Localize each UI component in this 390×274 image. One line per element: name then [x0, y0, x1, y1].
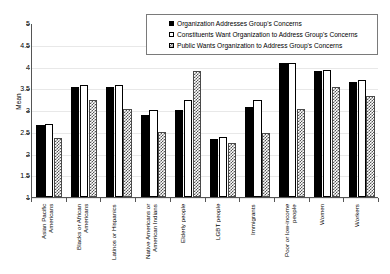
bar	[89, 100, 97, 197]
x-axis-category-label: Asian Pacific Americans	[40, 204, 56, 272]
legend-label: Public Wants Organization to Address Gro…	[177, 42, 342, 49]
legend-item: Constituents Want Organization to Addres…	[151, 29, 373, 40]
bar	[45, 124, 53, 197]
y-tick-mark	[26, 155, 30, 156]
bar	[123, 109, 131, 197]
x-axis-category-label: Workers	[353, 204, 369, 272]
x-axis-category-label: Latinos or Hispanics	[110, 204, 126, 272]
y-tick-mark	[26, 89, 30, 90]
x-axis-category-label: LGBT people	[214, 204, 230, 272]
y-tick-mark	[26, 46, 30, 47]
x-axis-category-label: Immigrants	[249, 204, 265, 272]
bar	[193, 71, 201, 197]
x-axis-category-label: Blacks or African Americans	[75, 204, 91, 272]
x-tick-mark	[343, 198, 344, 202]
bar	[80, 85, 88, 197]
x-tick-mark	[378, 198, 379, 202]
y-axis: 54.543.532.521.51	[0, 0, 30, 274]
legend-label: Organization Addresses Group's Concerns	[177, 20, 302, 27]
legend-item: Public Wants Organization to Address Gro…	[151, 40, 373, 51]
bar	[54, 138, 62, 197]
bar	[358, 80, 366, 197]
bar	[279, 63, 287, 197]
bar	[210, 139, 218, 197]
y-tick-mark	[26, 133, 30, 134]
bar	[175, 110, 183, 197]
x-tick-mark	[135, 198, 136, 202]
bar	[253, 100, 261, 197]
bar	[332, 87, 340, 197]
bar	[158, 132, 166, 197]
legend-swatch-icon	[169, 32, 174, 37]
bar	[141, 115, 149, 197]
legend-swatch-icon	[169, 21, 174, 26]
bar	[228, 143, 236, 197]
bar	[288, 63, 296, 197]
x-axis-category-label: Native Americans or American Indians	[144, 204, 160, 272]
y-tick-mark	[26, 198, 30, 199]
bar-chart: Mean 54.543.532.521.51 Organization Addr…	[0, 0, 390, 274]
bar	[349, 82, 357, 197]
bar	[262, 133, 270, 197]
bar	[314, 71, 322, 197]
bar	[297, 109, 305, 197]
bar	[149, 110, 157, 197]
x-tick-mark	[31, 198, 32, 202]
bar	[323, 70, 331, 197]
y-tick-mark	[26, 176, 30, 177]
x-axis-category-label: Elderly people	[179, 204, 195, 272]
bar	[115, 85, 123, 197]
bar	[184, 100, 192, 197]
bar-group	[32, 24, 67, 197]
bar-group	[67, 24, 102, 197]
x-tick-mark	[66, 198, 67, 202]
x-tick-mark	[309, 198, 310, 202]
x-axis-category-label: Poor or low-income people	[283, 204, 299, 272]
bar	[36, 125, 44, 197]
x-tick-mark	[274, 198, 275, 202]
y-tick-mark	[26, 111, 30, 112]
x-tick-mark	[100, 198, 101, 202]
bar-group	[101, 24, 136, 197]
bar	[71, 87, 79, 197]
y-tick-mark	[26, 68, 30, 69]
y-tick-mark	[26, 24, 30, 25]
legend-label: Constituents Want Organization to Addres…	[177, 31, 358, 38]
legend-swatch-icon	[169, 43, 174, 48]
bar	[219, 137, 227, 197]
bar	[106, 87, 114, 197]
x-tick-mark	[205, 198, 206, 202]
bar	[245, 107, 253, 197]
x-tick-mark	[239, 198, 240, 202]
x-axis-category-label: Women	[318, 204, 334, 272]
x-tick-mark	[170, 198, 171, 202]
bar	[366, 96, 374, 197]
chart-legend: Organization Addresses Group's Concerns …	[146, 14, 378, 55]
legend-item: Organization Addresses Group's Concerns	[151, 18, 373, 29]
